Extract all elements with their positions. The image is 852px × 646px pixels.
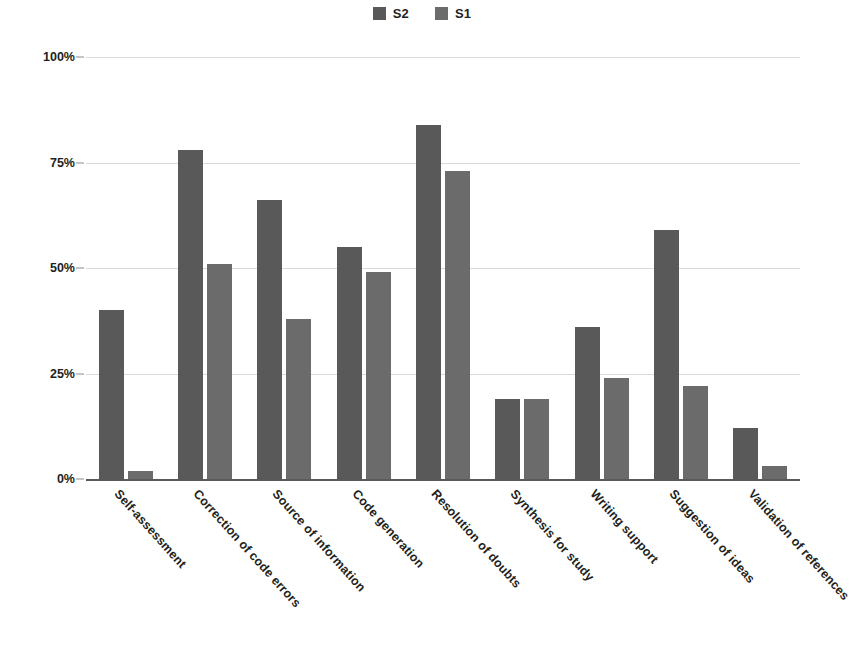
legend-swatch-s1 [435,7,448,20]
bar-s1[interactable] [128,471,153,479]
bar-s1[interactable] [683,386,708,479]
bar-group [403,57,482,479]
y-tick-label: 50% [50,261,75,275]
x-label-slot: Code generation [324,481,403,646]
x-label-slot: Synthesis for study [483,481,562,646]
bar-s2[interactable] [654,230,679,479]
bar-s1[interactable] [524,399,549,479]
x-label-slot: Correction of code errors [165,481,244,646]
x-axis-label: Validation of references [746,487,852,603]
y-tick-dash-25% [76,373,84,374]
bar-s2[interactable] [733,428,758,479]
legend-entry-s1[interactable]: S1 [435,7,471,20]
bar-s1[interactable] [366,272,391,479]
bar-s1[interactable] [604,378,629,479]
legend-label-s2: S2 [393,7,409,20]
bar-group [86,57,165,479]
y-tick-label: 25% [50,367,75,381]
bar-group [324,57,403,479]
y-tick-dash-50% [76,268,84,269]
x-axis-labels: Self-assessmentCorrection of code errors… [86,481,800,646]
plot-area: 0%25%50%75%100% [86,57,800,479]
y-tick-label: 100% [43,50,75,64]
bar-s2[interactable] [99,310,124,479]
bar-s2[interactable] [337,247,362,479]
bar-s2[interactable] [416,125,441,479]
chart-legend: S2 S1 [0,2,844,24]
bar-group [245,57,324,479]
y-tick-label: 0% [57,472,75,486]
x-label-slot: Suggestion of ideas [641,481,720,646]
x-label-slot: Source of information [245,481,324,646]
bar-s2[interactable] [575,327,600,479]
bar-group [641,57,720,479]
bar-group [721,57,800,479]
legend-entry-s2[interactable]: S2 [373,7,409,20]
legend-swatch-s2 [373,7,386,20]
bar-group [165,57,244,479]
legend-label-s1: S1 [455,7,471,20]
x-label-slot: Writing support [562,481,641,646]
y-tick-dash-100% [76,57,84,58]
y-tick-dash-75% [76,162,84,163]
bar-s1[interactable] [207,264,232,479]
bar-s1[interactable] [286,319,311,479]
y-tick-dash-0% [76,479,84,480]
bars-container [86,57,800,479]
bar-s1[interactable] [445,171,470,479]
y-tick-label: 75% [50,156,75,170]
bar-s2[interactable] [178,150,203,479]
bar-s2[interactable] [257,200,282,479]
bar-s2[interactable] [495,399,520,479]
x-label-slot: Self-assessment [86,481,165,646]
bar-s1[interactable] [762,466,787,479]
bar-group [483,57,562,479]
x-label-slot: Resolution of doubts [403,481,482,646]
x-label-slot: Validation of references [721,481,800,646]
bar-group [562,57,641,479]
